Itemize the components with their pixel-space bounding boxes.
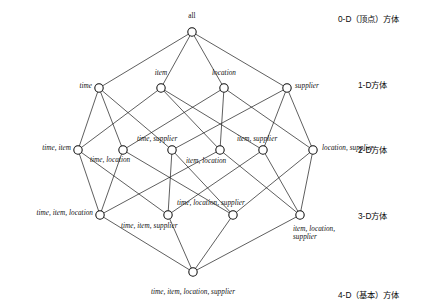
lattice-node-time_location_supplier[interactable] bbox=[229, 211, 237, 219]
node-label-item: item bbox=[155, 69, 168, 77]
lattice-edge bbox=[168, 154, 171, 211]
lattice-node-location_supplier[interactable] bbox=[309, 146, 317, 154]
lattice-edge bbox=[301, 154, 312, 211]
node-label-item_location: item, location bbox=[186, 157, 226, 165]
node-label-time_item: time, item bbox=[42, 144, 71, 152]
node-label-item_supplier: item, supplier bbox=[237, 135, 277, 143]
lattice-edge bbox=[103, 34, 189, 86]
lattice-node-time_item_location_supplier[interactable] bbox=[189, 268, 197, 276]
lattice-node-time_supplier[interactable] bbox=[168, 146, 176, 154]
lattice-node-time_item[interactable] bbox=[74, 146, 82, 154]
lattice-edge bbox=[196, 34, 284, 86]
node-label-time_item_location_supplier: time, item, location, supplier bbox=[151, 288, 235, 296]
lattice-edge bbox=[265, 154, 298, 212]
lattice-edge bbox=[197, 217, 297, 270]
edge-layer bbox=[79, 34, 312, 270]
lattice-node-time[interactable] bbox=[95, 84, 103, 92]
node-label-time_location_supplier: time, location, supplier bbox=[177, 199, 245, 207]
lattice-edge bbox=[101, 92, 122, 146]
node-label-time_item_location: time, item, location bbox=[37, 209, 94, 217]
lattice-edge bbox=[79, 92, 97, 146]
node-label-time_supplier: time, supplier bbox=[137, 135, 177, 143]
lattice-node-supplier[interactable] bbox=[283, 84, 291, 92]
dimension-label-dim-4: 4-D（基本）方体 bbox=[338, 288, 399, 300]
node-layer bbox=[74, 28, 317, 276]
dimension-label-dim-2: 2-D方体 bbox=[358, 143, 387, 155]
lattice-node-item_location_supplier[interactable] bbox=[296, 211, 304, 219]
lattice-edge bbox=[220, 92, 223, 146]
node-label-all: all bbox=[188, 12, 195, 20]
lattice-node-all[interactable] bbox=[188, 28, 196, 36]
lattice-node-time_item_location[interactable] bbox=[96, 211, 104, 219]
lattice-edge bbox=[289, 92, 312, 146]
lattice-node-location[interactable] bbox=[220, 84, 228, 92]
dimension-label-dim-0: 0-D（顶点）方体 bbox=[338, 12, 399, 24]
dimension-label-dim-3: 3-D方体 bbox=[358, 209, 387, 221]
node-label-time_location: time, location bbox=[90, 156, 130, 164]
dimension-label-dim-1: 1-D方体 bbox=[358, 78, 387, 90]
node-label-time_item_supplier: time, item, supplier bbox=[121, 222, 178, 230]
node-label-location: location bbox=[212, 69, 236, 77]
node-label-time: time bbox=[79, 82, 92, 90]
lattice-node-time_location[interactable] bbox=[119, 146, 127, 154]
node-label-item_location_supplier: item, location, supplier bbox=[293, 225, 345, 242]
lattice-edge bbox=[236, 153, 309, 213]
lattice-node-item[interactable] bbox=[157, 84, 165, 92]
lattice-node-item_supplier[interactable] bbox=[259, 146, 267, 154]
lattice-node-item_location[interactable] bbox=[216, 146, 224, 154]
lattice-node-time_item_supplier[interactable] bbox=[164, 211, 172, 219]
lattice-diagram: alltimeitemlocationsuppliertime, itemtim… bbox=[0, 0, 429, 306]
node-label-supplier: supplier bbox=[295, 82, 319, 90]
